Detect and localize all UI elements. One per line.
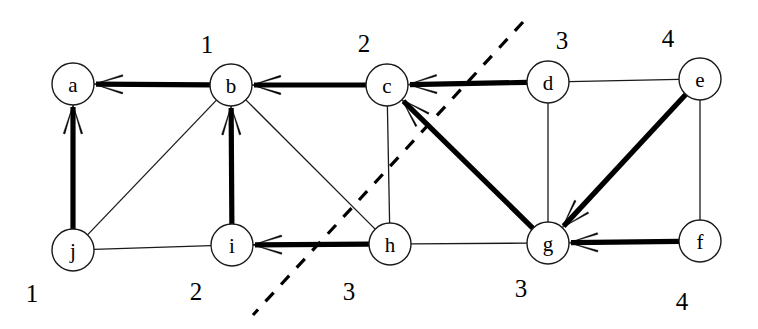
num-h: 3 — [343, 278, 356, 305]
arrow-e-g-shaft — [564, 94, 686, 226]
arrow-g-c-shaft — [403, 101, 533, 228]
node-g-label: g — [543, 232, 554, 256]
arrow-e-g — [562, 94, 685, 227]
arrow-f-g — [569, 233, 679, 252]
arrow-c-b — [252, 75, 366, 94]
node-j-label: j — [69, 239, 76, 263]
graph-svg: abcdefghij 123412334 — [0, 0, 758, 329]
num-g: 3 — [515, 275, 528, 302]
edge-c-h — [387, 106, 389, 223]
edge-j-i — [94, 246, 211, 250]
node-d[interactable]: d — [527, 61, 569, 103]
node-j[interactable]: j — [52, 229, 94, 271]
num-e: 4 — [662, 25, 675, 52]
arrow-h-i — [253, 235, 369, 254]
node-b-label: b — [226, 74, 237, 98]
arrow-b-a — [94, 75, 210, 94]
node-a-label: a — [68, 73, 78, 97]
edge-b-h — [246, 100, 375, 229]
node-e-label: e — [695, 68, 704, 92]
diagram-canvas: abcdefghij 123412334 — [0, 0, 758, 329]
arrow-h-i-shaft — [255, 244, 369, 245]
arrow-g-c — [402, 100, 533, 229]
node-c[interactable]: c — [366, 64, 408, 106]
edge-d-e — [569, 79, 679, 81]
num-b: 1 — [201, 31, 214, 58]
edge-j-b — [88, 100, 217, 235]
num-d: 3 — [556, 27, 569, 54]
node-i[interactable]: i — [211, 224, 253, 266]
num-i: 2 — [190, 278, 203, 305]
arrow-i-b — [222, 106, 241, 224]
arrow-i-b-shaft — [231, 108, 232, 224]
node-c-label: c — [382, 74, 391, 98]
node-b[interactable]: b — [210, 64, 252, 106]
node-h-label: h — [385, 233, 396, 257]
arrow-j-a — [63, 105, 82, 229]
node-f[interactable]: f — [679, 220, 721, 262]
node-e[interactable]: e — [679, 58, 721, 100]
num-f: 4 — [676, 288, 689, 315]
node-d-label: d — [543, 71, 554, 95]
num-j: 1 — [26, 280, 39, 307]
num-c: 2 — [358, 30, 371, 57]
arrow-f-g-shaft — [571, 241, 679, 242]
edge-h-g — [411, 243, 527, 244]
node-f-label: f — [697, 230, 704, 254]
arrow-b-a-shaft — [96, 84, 210, 85]
node-g[interactable]: g — [527, 222, 569, 264]
node-a[interactable]: a — [52, 63, 94, 105]
arrow-d-c-shaft — [410, 82, 527, 84]
node-h[interactable]: h — [369, 223, 411, 265]
arrow-d-c — [408, 74, 527, 93]
number-labels-layer: 123412334 — [26, 25, 689, 315]
node-i-label: i — [229, 234, 235, 258]
